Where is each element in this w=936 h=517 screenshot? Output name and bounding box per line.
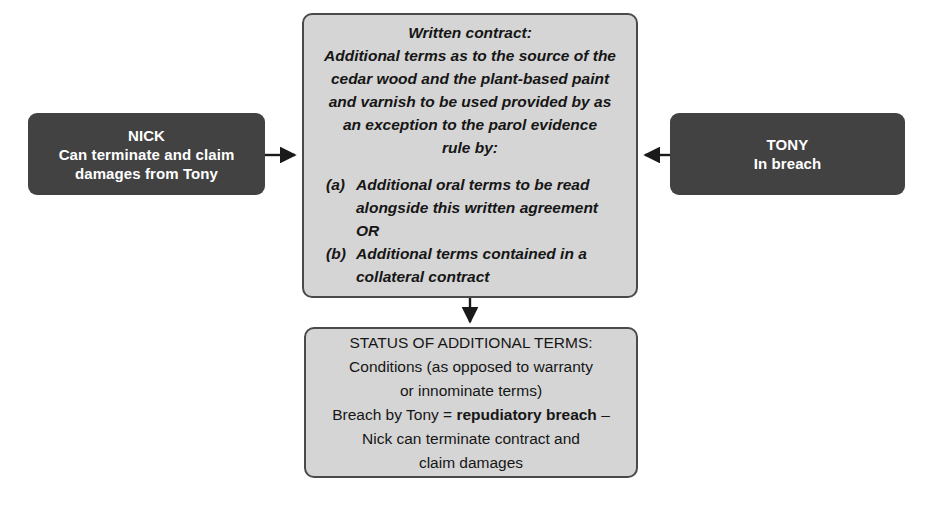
exception-list-item-a-line-3: OR — [356, 219, 622, 242]
written-contract-line-1: Written contract: — [318, 21, 622, 44]
exception-list-item-a-line-2: alongside this written agreement — [356, 196, 622, 219]
status-line-3: or innominate terms) — [320, 379, 622, 403]
exception-list-item-b: (b)Additional terms contained in a colla… — [326, 242, 622, 288]
status-paragraph: STATUS OF ADDITIONAL TERMS: Conditions (… — [320, 331, 622, 475]
written-contract-line-5: an exception to the parol evidence — [318, 113, 622, 136]
written-contract-line-6: rule by: — [318, 136, 622, 159]
nick-box-heading: NICK — [128, 126, 165, 145]
status-line-2: Conditions (as opposed to warranty — [320, 355, 622, 379]
written-contract-line-3: cedar wood and the plant-based paint — [318, 67, 622, 90]
written-contract-line-2: Additional terms as to the source of the — [318, 44, 622, 67]
status-line-4: Breach by Tony = repudiatory breach – — [320, 403, 622, 427]
exception-list-item-a: (a)Additional oral terms to be read alon… — [326, 173, 622, 242]
exception-list-item-b-line-2: collateral contract — [356, 265, 622, 288]
tony-box-line-1: In breach — [754, 154, 822, 173]
status-line-4-prefix: Breach by Tony = — [332, 406, 456, 423]
nick-box: NICK Can terminate and claim damages fro… — [28, 113, 265, 195]
nick-box-line-1: Can terminate and claim — [59, 145, 235, 164]
exception-list: (a)Additional oral terms to be read alon… — [318, 173, 622, 288]
nick-box-line-2: damages from Tony — [75, 164, 218, 183]
exception-list-item-a-line-1: Additional oral terms to be read — [356, 176, 589, 193]
status-line-5: Nick can terminate contract and — [320, 427, 622, 451]
tony-box-heading: TONY — [767, 135, 809, 154]
written-contract-paragraph: Written contract: Additional terms as to… — [318, 21, 622, 159]
status-line-1: STATUS OF ADDITIONAL TERMS: — [320, 331, 622, 355]
exception-list-item-b-line-1: Additional terms contained in a — [356, 245, 587, 262]
status-of-additional-terms-box: STATUS OF ADDITIONAL TERMS: Conditions (… — [304, 327, 638, 478]
diagram-canvas: NICK Can terminate and claim damages fro… — [0, 0, 936, 517]
status-line-6: claim damages — [320, 451, 622, 475]
status-line-4-suffix: – — [597, 406, 610, 423]
written-contract-box: Written contract: Additional terms as to… — [302, 13, 638, 298]
tony-box: TONY In breach — [670, 113, 905, 195]
status-line-4-emphasis: repudiatory breach — [456, 406, 596, 423]
written-contract-line-4: and varnish to be used provided by as — [318, 90, 622, 113]
exception-list-item-b-label: (b) — [326, 242, 356, 265]
exception-list-item-a-label: (a) — [326, 173, 356, 196]
